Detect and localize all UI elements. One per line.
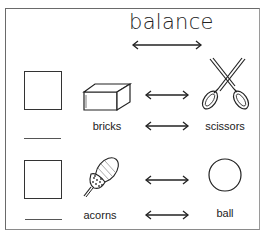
answer-box-row-2[interactable]	[24, 160, 62, 199]
brick-icon	[83, 82, 133, 112]
answer-line-row-2[interactable]	[25, 219, 62, 220]
row-1-double-arrow-icon	[144, 90, 190, 100]
label-acorns: acorns	[70, 209, 130, 221]
balance-double-arrow-icon	[131, 40, 203, 50]
label-scissors: scissors	[195, 120, 255, 132]
worksheet-title: balance	[129, 10, 214, 34]
row-2-double-arrow-icon	[144, 175, 190, 185]
scissors-icon	[200, 57, 252, 111]
row-2-label-double-arrow-icon	[144, 210, 190, 220]
acorn-icon	[81, 156, 121, 198]
row-1-label-double-arrow-icon	[144, 121, 190, 131]
answer-line-row-1[interactable]	[24, 138, 61, 139]
label-bricks: bricks	[77, 120, 137, 132]
label-ball: ball	[195, 207, 255, 219]
ball-icon	[207, 157, 243, 193]
answer-box-row-1[interactable]	[24, 71, 62, 110]
